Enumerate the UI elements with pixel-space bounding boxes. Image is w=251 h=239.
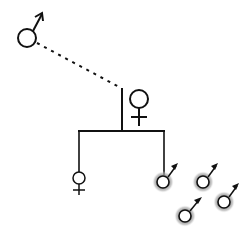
female-symbol-daughter [73, 172, 85, 195]
female-symbol-mother [130, 90, 148, 126]
male-symbol-father [18, 13, 43, 47]
dotted-relationship-line [37, 43, 121, 88]
pedigree-diagram [0, 0, 251, 239]
male-symbol-son-3 [213, 183, 239, 213]
male-symbol-son-4 [174, 197, 202, 227]
male-symbol-son-1 [152, 163, 178, 193]
male-symbol-son-2 [192, 163, 218, 193]
